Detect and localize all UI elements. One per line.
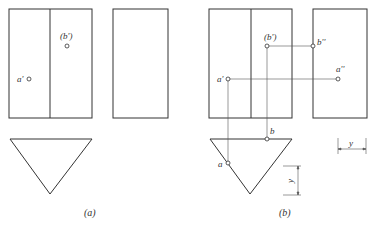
label-b-double-prime: b'' [317,37,326,47]
point-a [226,161,230,165]
label-b-prime-a: (b') [60,31,72,41]
point-b-prime [265,44,269,48]
point-b-prime-a [65,44,69,48]
point-b [265,137,269,141]
label-b: b [270,126,275,136]
side-view-a [113,9,168,118]
label-y-horizontal: y [348,138,353,148]
label-a-double-prime: a'' [336,64,345,74]
projection-lines [228,46,338,163]
point-b-double-prime [311,44,315,48]
panel-a [9,9,168,194]
caption-a: (a) [84,207,96,219]
label-a: a [218,159,223,169]
label-b-prime: (b') [264,32,276,42]
label-y-vertical: y [285,179,295,184]
label-a-prime-a: a' [17,74,25,84]
label-a-prime: a' [217,74,225,84]
orthographic-projection-diagram: (b') a' (a) (b') b'' a' a'' b a y [0,0,373,227]
points-b [226,44,340,165]
point-a-double-prime [336,77,340,81]
point-a-prime-a [27,77,31,81]
caption-b: (b) [279,207,291,219]
point-a-prime [226,77,230,81]
top-view-triangle-a [10,139,92,194]
